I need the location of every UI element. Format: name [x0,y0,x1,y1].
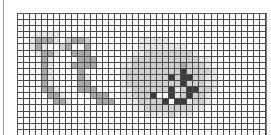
grid-cell [260,130,266,135]
left-edge-line [3,0,4,135]
pixel-grid [17,13,267,135]
